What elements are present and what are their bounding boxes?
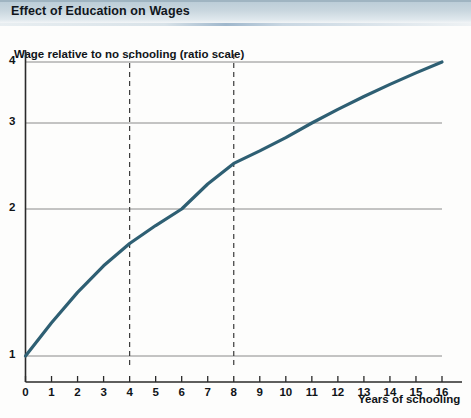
x-tick-label: 11 — [298, 386, 326, 398]
x-tick-label: 13 — [350, 386, 378, 398]
x-tick-label: 7 — [194, 386, 222, 398]
x-tick-label: 6 — [168, 386, 196, 398]
x-tick-label: 15 — [402, 386, 430, 398]
x-tick-label: 0 — [12, 386, 40, 398]
page-title: Effect of Education on Wages — [11, 4, 190, 18]
x-tick-label: 12 — [324, 386, 352, 398]
x-tick-label: 16 — [428, 386, 456, 398]
x-tick-label: 2 — [64, 386, 92, 398]
title-bar: Effect of Education on Wages — [0, 0, 471, 23]
x-tick-label: 3 — [90, 386, 118, 398]
x-tick-label: 5 — [142, 386, 170, 398]
x-tick-label: 4 — [116, 386, 144, 398]
y-tick-label: 4 — [0, 54, 16, 66]
x-tick-label: 8 — [220, 386, 248, 398]
x-tick-label: 1 — [38, 386, 66, 398]
chart-plot-area — [0, 26, 471, 418]
y-tick-label: 2 — [0, 201, 16, 213]
y-tick-label: 1 — [0, 348, 16, 360]
y-tick-label: 3 — [0, 115, 16, 127]
x-tick-label: 9 — [246, 386, 274, 398]
chart-figure: Wage relative to no schooling (ratio sca… — [0, 26, 471, 418]
x-tick-label: 10 — [272, 386, 300, 398]
x-tick-label: 14 — [376, 386, 404, 398]
